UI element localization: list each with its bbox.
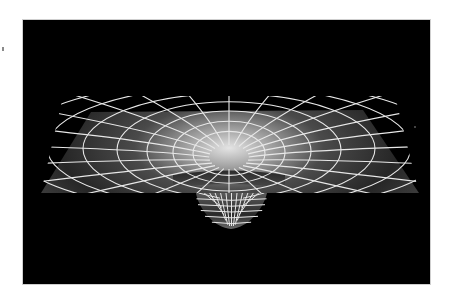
stray-mark: [2, 47, 4, 51]
funnel-cup: [196, 193, 267, 229]
page: [0, 0, 452, 301]
caption: [22, 287, 431, 299]
gravity-well-figure: [22, 19, 431, 285]
gravity-well-illustration: [23, 20, 431, 285]
star-dot: [414, 126, 416, 128]
